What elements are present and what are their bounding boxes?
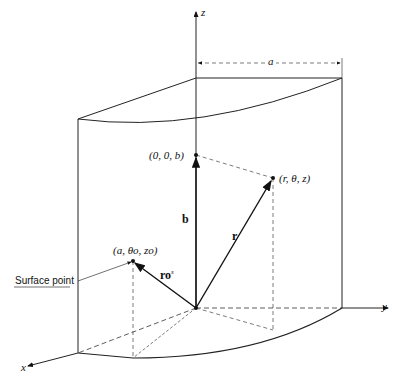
x-axis-label: x xyxy=(21,361,26,373)
point-axis xyxy=(194,153,198,157)
point-field xyxy=(271,176,275,180)
field-point-label: (r, θ, z) xyxy=(279,172,310,184)
z-axis-label: z xyxy=(201,6,205,18)
cylinder-diagram xyxy=(0,0,405,386)
axis-point-label: (0, 0, b) xyxy=(149,149,184,161)
x-axis xyxy=(28,353,78,366)
vector-r-label: r xyxy=(232,229,237,244)
vector-r xyxy=(196,181,271,308)
origin-point xyxy=(194,306,198,310)
vector-ro-s-label: ros xyxy=(160,268,174,283)
y-axis-label: y xyxy=(382,300,387,312)
point-surface xyxy=(131,259,135,263)
surface-point-coords: (a, θo, zo) xyxy=(113,244,158,256)
vector-b-label: b xyxy=(182,212,189,227)
surface-point-callout: Surface point xyxy=(15,275,74,286)
dimension-a-label: a xyxy=(266,55,276,67)
